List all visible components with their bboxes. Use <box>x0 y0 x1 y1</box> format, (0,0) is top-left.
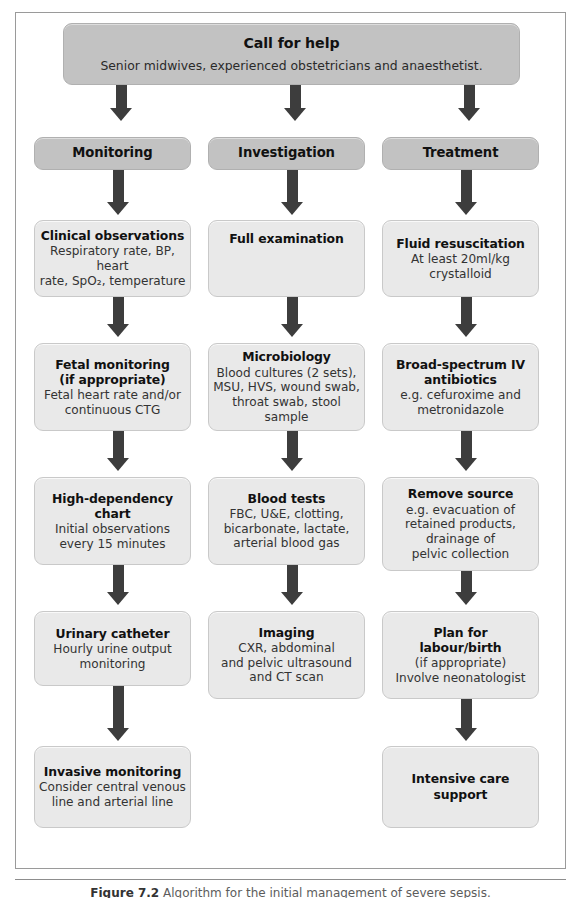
node-body: Hourly urine output monitoring <box>53 642 171 672</box>
caption-divider <box>15 879 566 880</box>
arrow-investigation-2-to-3 <box>281 431 303 471</box>
figure-caption: Figure 7.2 Algorithm for the initial man… <box>15 886 566 898</box>
arrow-investigation-header-to-1 <box>281 170 303 215</box>
column-header-treatment: Treatment <box>382 137 539 170</box>
node-call-for-help: Call for help Senior midwives, experienc… <box>63 23 520 85</box>
node-body: e.g. cefuroxime and metronidazole <box>400 388 521 418</box>
arrow-treatment-2-to-3 <box>455 431 477 471</box>
caption-label: Figure 7.2 <box>90 886 159 898</box>
node-body: Initial observations every 15 minutes <box>55 522 170 552</box>
node-title: Fetal monitoring (if appropriate) <box>55 357 170 387</box>
node-body: (if appropriate) Involve neonatologist <box>395 656 525 686</box>
node-body: CXR, abdominal and pelvic ultrasound and… <box>221 641 352 685</box>
arrow-monitoring-4-to-5 <box>107 686 129 741</box>
arrow-treatment-4-to-5 <box>455 699 477 741</box>
node-intensive-care-support: Intensive care support <box>382 746 539 828</box>
column-header-label: Investigation <box>238 145 335 161</box>
node-title: Fluid resuscitation <box>396 236 525 251</box>
node-high-dependency-chart: High-dependency chart Initial observatio… <box>34 477 191 565</box>
arrow-monitoring-1-to-2 <box>107 297 129 337</box>
node-title: Full examination <box>229 231 343 246</box>
node-body: FBC, U&E, clotting, bicarbonate, lactate… <box>224 507 350 551</box>
column-header-label: Monitoring <box>72 145 152 161</box>
arrow-treatment-1-to-2 <box>455 297 477 337</box>
node-body: At least 20ml/kg crystalloid <box>411 252 510 282</box>
node-title: Microbiology <box>242 349 331 364</box>
node-urinary-catheter: Urinary catheter Hourly urine output mon… <box>34 611 191 686</box>
column-header-label: Treatment <box>423 145 499 161</box>
node-title: Urinary catheter <box>56 626 170 641</box>
node-title: Imaging <box>259 625 315 640</box>
node-broad-spectrum-antibiotics: Broad-spectrum IV antibiotics e.g. cefur… <box>382 343 539 431</box>
column-header-monitoring: Monitoring <box>34 137 191 170</box>
column-header-investigation: Investigation <box>208 137 365 170</box>
node-blood-tests: Blood tests FBC, U&E, clotting, bicarbon… <box>208 477 365 565</box>
node-title: Blood tests <box>248 491 326 506</box>
arrow-monitoring-3-to-4 <box>107 565 129 605</box>
arrow-monitoring-2-to-3 <box>107 431 129 471</box>
node-title: Call for help <box>244 35 340 52</box>
node-body: Consider central venous line and arteria… <box>39 780 186 810</box>
node-title: Plan for labour/birth <box>419 625 501 655</box>
node-title: Broad-spectrum IV antibiotics <box>396 357 525 387</box>
arrow-treatment-header-to-1 <box>455 170 477 215</box>
node-title: Clinical observations <box>41 228 184 243</box>
arrow-investigation-3-to-4 <box>281 565 303 605</box>
arrow-treatment-3-to-4 <box>455 571 477 605</box>
node-body: Fetal heart rate and/or continuous CTG <box>44 388 181 418</box>
node-microbiology: Microbiology Blood cultures (2 sets), MS… <box>208 343 365 431</box>
node-fluid-resuscitation: Fluid resuscitation At least 20ml/kg cry… <box>382 220 539 297</box>
node-title: High-dependency chart <box>52 491 173 521</box>
node-title: Invasive monitoring <box>44 764 181 779</box>
arrow-banner-to-investigation <box>284 85 306 121</box>
node-plan-for-labour-birth: Plan for labour/birth (if appropriate) I… <box>382 611 539 699</box>
node-body: Respiratory rate, BP, heart rate, SpO₂, … <box>35 244 190 288</box>
arrow-banner-to-treatment <box>458 85 480 121</box>
node-body: Senior midwives, experienced obstetricia… <box>100 58 482 73</box>
arrow-banner-to-monitoring <box>110 85 132 121</box>
figure-canvas: Call for help Senior midwives, experienc… <box>0 0 581 898</box>
node-invasive-monitoring: Invasive monitoring Consider central ven… <box>34 746 191 828</box>
caption-text: Algorithm for the initial management of … <box>163 886 491 898</box>
node-full-examination: Full examination <box>208 220 365 297</box>
node-title: Remove source <box>408 486 513 501</box>
node-body: Blood cultures (2 sets), MSU, HVS, wound… <box>209 366 364 425</box>
node-body: e.g. evacuation of retained products, dr… <box>405 503 516 562</box>
arrow-investigation-1-to-2 <box>281 297 303 337</box>
node-clinical-observations: Clinical observations Respiratory rate, … <box>34 220 191 297</box>
arrow-monitoring-header-to-1 <box>107 170 129 215</box>
figure-frame: Call for help Senior midwives, experienc… <box>15 12 566 869</box>
node-title: Intensive care support <box>412 771 510 801</box>
node-remove-source: Remove source e.g. evacuation of retaine… <box>382 477 539 571</box>
node-fetal-monitoring: Fetal monitoring (if appropriate) Fetal … <box>34 343 191 431</box>
node-imaging: Imaging CXR, abdominal and pelvic ultras… <box>208 611 365 699</box>
